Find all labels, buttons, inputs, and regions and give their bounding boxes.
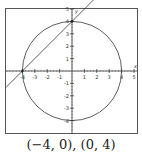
y-tick-label: -3 (64, 105, 69, 111)
x-axis-label: x (133, 63, 137, 69)
x-tick-label: -2 (45, 74, 50, 80)
x-tick-label: -3 (32, 74, 37, 80)
x-tick-label: 3 (108, 74, 111, 80)
graph: -4-3-2-112345-4-3-2-112345xy (0, 0, 142, 136)
y-tick-label: -2 (64, 93, 69, 99)
y-axis-label: y (74, 8, 79, 15)
x-tick-label: -1 (57, 74, 62, 80)
x-tick-label: 2 (95, 74, 98, 80)
intersection-point (71, 20, 74, 23)
caption: (−4, 0), (0, 4) (0, 137, 142, 152)
y-tick-label: 5 (66, 6, 69, 12)
y-tick-label: -1 (64, 80, 69, 86)
y-tick-label: 2 (66, 43, 69, 49)
y-tick-label: 1 (66, 56, 69, 62)
x-tick-label: 1 (83, 74, 86, 80)
intersection-point (21, 70, 24, 73)
x-tick-label: 5 (132, 74, 135, 80)
y-tick-label: 3 (66, 31, 69, 37)
